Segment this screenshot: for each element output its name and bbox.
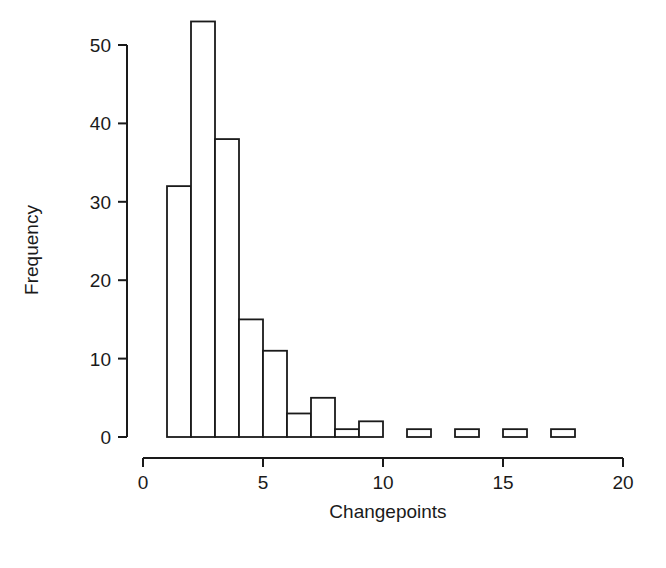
- y-axis-tick-label: 0: [100, 427, 111, 448]
- histogram-figure: 01020304050 05101520 Changepoints Freque…: [0, 0, 666, 568]
- x-axis-title: Changepoints: [329, 501, 446, 522]
- histogram-bar: [335, 429, 359, 437]
- x-axis-tick-label: 15: [492, 472, 513, 493]
- histogram-bar: [503, 429, 527, 437]
- histogram-bar: [239, 319, 263, 437]
- y-axis-tick-label: 20: [90, 270, 111, 291]
- bars-group: [167, 21, 575, 437]
- y-axis-title: Frequency: [21, 205, 42, 295]
- histogram-bar: [215, 139, 239, 437]
- y-axis-tick-label: 30: [90, 192, 111, 213]
- x-axis-tick-label: 20: [612, 472, 633, 493]
- histogram-bar: [263, 351, 287, 437]
- x-axis-tick-label: 5: [258, 472, 269, 493]
- x-axis-tick-label: 0: [138, 472, 149, 493]
- x-axis: 05101520: [138, 458, 634, 493]
- histogram-bar: [359, 421, 383, 437]
- histogram-bar: [455, 429, 479, 437]
- histogram-bar: [311, 398, 335, 437]
- histogram-bar: [167, 186, 191, 437]
- y-axis-tick-label: 10: [90, 349, 111, 370]
- histogram-bar: [191, 21, 215, 437]
- x-axis-tick-label: 10: [372, 472, 393, 493]
- y-axis-tick-label: 40: [90, 113, 111, 134]
- histogram-bar: [407, 429, 431, 437]
- histogram-bar: [287, 413, 311, 437]
- histogram-plot: 01020304050 05101520 Changepoints Freque…: [0, 0, 666, 568]
- histogram-bar: [551, 429, 575, 437]
- y-axis-tick-label: 50: [90, 35, 111, 56]
- y-axis: 01020304050: [90, 35, 127, 448]
